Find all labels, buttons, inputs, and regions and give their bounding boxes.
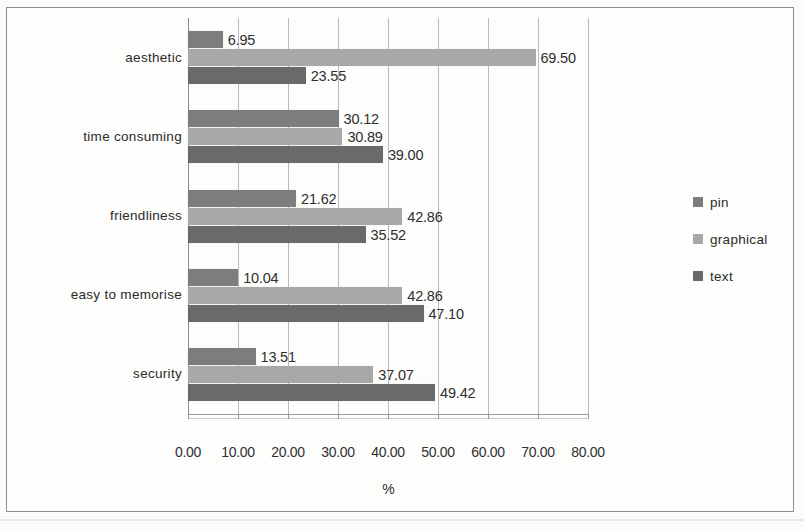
x-tick-label: 30.00 (321, 444, 355, 460)
tick-mark-80.00 (588, 414, 589, 419)
category-label: time consuming (12, 129, 182, 144)
category-axis: aesthetictime consumingfriendlinesseasy … (8, 18, 182, 414)
bar-group: 10.0442.8647.10 (188, 269, 588, 322)
chart-legend: pingraphicaltext (693, 195, 793, 306)
x-tick-label: 20.00 (271, 444, 305, 460)
bar-value-label: 13.51 (261, 349, 296, 365)
bar-pin[interactable] (188, 110, 339, 127)
legend-item[interactable]: text (693, 269, 793, 283)
gridline-80.00 (588, 18, 589, 414)
bar-value-label: 42.86 (407, 288, 442, 304)
x-tick-label: 0.00 (175, 444, 201, 460)
bar-value-label: 37.07 (378, 367, 413, 383)
bar-graphical[interactable] (188, 128, 342, 145)
tick-mark-20.00 (288, 414, 289, 419)
bar-group: 13.5137.0749.42 (188, 348, 588, 401)
bar-pin[interactable] (188, 31, 223, 48)
bar-value-label: 23.55 (311, 68, 346, 84)
category-label: easy to memorise (12, 287, 182, 302)
bar-group: 30.1230.8939.00 (188, 110, 588, 163)
legend-swatch-icon (693, 197, 703, 207)
x-tick-label: 50.00 (421, 444, 455, 460)
bar-value-label: 39.00 (388, 147, 423, 163)
bar-value-label: 42.86 (407, 209, 442, 225)
x-tick-label: 10.00 (221, 444, 255, 460)
scan-artifact-band (0, 519, 804, 521)
bar-graphical[interactable] (188, 287, 402, 304)
bar-value-label: 21.62 (301, 191, 336, 207)
category-label: friendliness (12, 208, 182, 223)
tick-mark-70.00 (538, 414, 539, 419)
tick-mark-40.00 (388, 414, 389, 419)
bar-value-label: 49.42 (440, 385, 475, 401)
x-tick-label: 40.00 (371, 444, 405, 460)
bar-value-label: 10.04 (243, 270, 278, 286)
bar-group: 21.6242.8635.52 (188, 190, 588, 243)
tick-mark-30.00 (338, 414, 339, 419)
tick-mark-50.00 (438, 414, 439, 419)
x-tick-label: 80.00 (571, 444, 605, 460)
bar-text[interactable] (188, 305, 424, 322)
bar-value-label: 30.89 (347, 129, 382, 145)
legend-label: graphical (710, 232, 767, 247)
tick-mark-60.00 (488, 414, 489, 419)
bar-graphical[interactable] (188, 49, 536, 66)
tick-mark-10.00 (238, 414, 239, 419)
legend-label: pin (710, 195, 729, 210)
bar-text[interactable] (188, 226, 366, 243)
figure-container: aesthetictime consumingfriendlinesseasy … (0, 0, 804, 531)
x-tick-label: 70.00 (521, 444, 555, 460)
bar-pin[interactable] (188, 190, 296, 207)
bar-text[interactable] (188, 384, 435, 401)
category-label: security (12, 366, 182, 381)
bar-group: 6.9569.5023.55 (188, 31, 588, 84)
bar-value-label: 30.12 (344, 111, 379, 127)
bar-text[interactable] (188, 146, 383, 163)
x-axis-title: % (188, 481, 589, 497)
bar-value-label: 6.95 (228, 32, 255, 48)
x-tick-labels: 0.0010.0020.0030.0040.0050.0060.0070.008… (188, 444, 589, 464)
legend-label: text (710, 269, 733, 284)
bar-value-label: 35.52 (371, 227, 406, 243)
x-tick-label: 60.00 (471, 444, 505, 460)
plot-area: 6.9569.5023.5530.1230.8939.0021.6242.863… (188, 18, 588, 414)
tick-mark-0.00 (188, 414, 189, 419)
legend-swatch-icon (693, 271, 703, 281)
bar-value-label: 47.10 (429, 306, 464, 322)
legend-swatch-icon (693, 234, 703, 244)
bar-pin[interactable] (188, 269, 238, 286)
bar-text[interactable] (188, 67, 306, 84)
bar-pin[interactable] (188, 348, 256, 365)
legend-item[interactable]: pin (693, 195, 793, 209)
bar-graphical[interactable] (188, 208, 402, 225)
legend-item[interactable]: graphical (693, 232, 793, 246)
bar-value-label: 69.50 (541, 50, 576, 66)
bar-graphical[interactable] (188, 366, 373, 383)
category-label: aesthetic (12, 50, 182, 65)
